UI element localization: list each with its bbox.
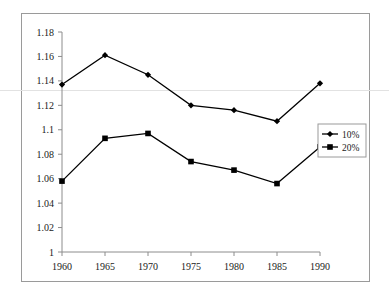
y-axis-tick-label: 1.12 xyxy=(37,100,55,111)
y-axis-tick-label: 1.06 xyxy=(37,173,55,184)
y-axis-tick-label: 1.14 xyxy=(37,75,55,86)
data-point-marker-square xyxy=(145,131,151,137)
y-axis-tick-label: 1.18 xyxy=(37,27,55,38)
legend-label-10pct: 10% xyxy=(342,130,360,140)
y-axis-tick-label: 1.08 xyxy=(37,149,55,160)
y-axis-labels: 11.021.041.061.081.11.121.141.161.18 xyxy=(37,27,55,258)
y-axis-tick-label: 1.16 xyxy=(37,51,55,62)
data-point-marker-square xyxy=(188,159,194,165)
legend-marker-square xyxy=(327,144,333,150)
series-line-20pct xyxy=(62,133,320,183)
x-axis-tick-label: 1970 xyxy=(138,261,158,272)
y-axis-tick-label: 1.1 xyxy=(42,124,55,135)
x-axis-tick-label: 1960 xyxy=(52,261,72,272)
x-axis-tick-label: 1975 xyxy=(181,261,201,272)
series-line-10pct xyxy=(62,55,320,121)
x-axis-tick-label: 1985 xyxy=(267,261,287,272)
data-point-marker-square xyxy=(274,181,280,187)
data-point-marker-diamond xyxy=(231,107,237,113)
legend-label-20pct: 20% xyxy=(342,143,360,153)
data-point-marker-square xyxy=(102,136,108,142)
chart-container: 11.021.041.061.081.11.121.141.161.18 196… xyxy=(0,0,389,298)
x-axis-tick-label: 1990 xyxy=(310,261,330,272)
x-axis-labels: 1960196519701975198019851990 xyxy=(52,261,330,272)
y-axis-tick-group xyxy=(58,32,62,252)
data-point-marker-square xyxy=(231,167,237,173)
x-axis-tick-label: 1965 xyxy=(95,261,115,272)
y-axis-tick-label: 1.04 xyxy=(37,198,55,209)
y-axis-tick-label: 1.02 xyxy=(37,222,55,233)
x-axis-tick-label: 1980 xyxy=(224,261,244,272)
y-axis-tick-label: 1 xyxy=(49,247,54,258)
series-markers-group xyxy=(59,52,323,186)
data-point-marker-square xyxy=(59,178,65,184)
x-axis-tick-group xyxy=(62,252,320,256)
line-chart-plot: 11.021.041.061.081.11.121.141.161.18 196… xyxy=(0,0,389,298)
chart-legend: 10%20% xyxy=(318,124,366,157)
